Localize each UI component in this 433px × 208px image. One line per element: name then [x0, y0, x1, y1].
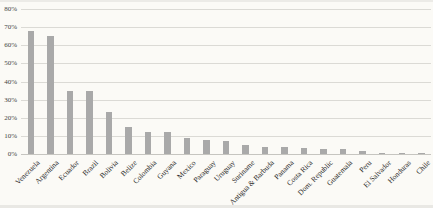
bar: [28, 31, 35, 154]
x-axis-label: Brazil: [81, 159, 100, 178]
x-axis-label: Chile: [415, 159, 432, 176]
bar: [106, 112, 113, 154]
bar: [47, 36, 54, 154]
bar: [242, 145, 249, 154]
y-axis-tick-label: 30%: [4, 96, 17, 104]
bar: [164, 132, 171, 154]
bar: [262, 147, 269, 154]
x-axis-label: Bolivia: [98, 159, 119, 180]
bar: [125, 127, 132, 154]
y-axis-tick-label: 50%: [4, 59, 17, 67]
gridline: [21, 136, 431, 137]
bar: [340, 149, 347, 154]
y-axis-tick-label: 10%: [4, 132, 17, 140]
gridline: [21, 82, 431, 83]
bar: [86, 91, 93, 154]
bar: [184, 138, 191, 154]
gridline: [21, 27, 431, 28]
y-axis-tick-label: 70%: [4, 23, 17, 31]
gridline: [21, 45, 431, 46]
y-axis-tick-label: 60%: [4, 41, 17, 49]
gridline: [21, 63, 431, 64]
bar: [145, 132, 152, 154]
bar: [301, 148, 308, 154]
bar: [203, 140, 210, 155]
gridline: [21, 118, 431, 119]
bar: [399, 153, 406, 154]
y-axis-tick-label: 0%: [8, 150, 17, 158]
y-axis-tick-label: 20%: [4, 114, 17, 122]
bar: [320, 149, 327, 154]
bar: [418, 153, 425, 154]
bar: [359, 151, 366, 154]
y-axis-tick-label: 80%: [4, 5, 17, 13]
x-axis-label: Guyana: [156, 159, 178, 181]
y-axis-tick-label: 40%: [4, 78, 17, 86]
bar: [67, 91, 74, 154]
bar: [379, 153, 386, 154]
bar-chart: 0%10%20%30%40%50%60%70%80%VenezuelaArgen…: [0, 0, 433, 208]
gridline: [21, 100, 431, 101]
bar: [223, 141, 230, 154]
bar: [281, 147, 288, 154]
scan-edge-top: [0, 0, 433, 2]
gridline: [21, 9, 431, 10]
x-axis-label: Ecuador: [57, 159, 80, 182]
x-axis-baseline: [21, 154, 431, 155]
scan-edge-bottom: [0, 205, 433, 208]
